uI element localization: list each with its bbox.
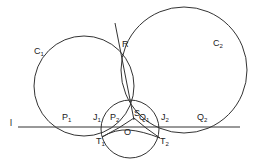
diagram-drawing	[0, 0, 257, 162]
label-c1: C1	[34, 47, 44, 57]
label-t2: T2	[160, 137, 169, 147]
radical-axis-line	[115, 23, 134, 120]
label-j1: J1	[93, 113, 101, 123]
label-p1: P1	[62, 113, 71, 123]
geometry-diagram: C1 C2 R S l P1 J1 P2 O Q1 J2 Q2 T1 T2	[0, 0, 257, 162]
label-q2: Q2	[197, 113, 207, 123]
label-t1: T1	[96, 137, 105, 147]
label-j2: J2	[161, 113, 169, 123]
label-c2: C2	[213, 39, 223, 49]
label-o: O	[124, 128, 131, 137]
label-l: l	[10, 119, 12, 128]
label-q1: Q1	[139, 113, 149, 123]
label-r: R	[122, 40, 129, 49]
label-p2: P2	[110, 113, 119, 123]
